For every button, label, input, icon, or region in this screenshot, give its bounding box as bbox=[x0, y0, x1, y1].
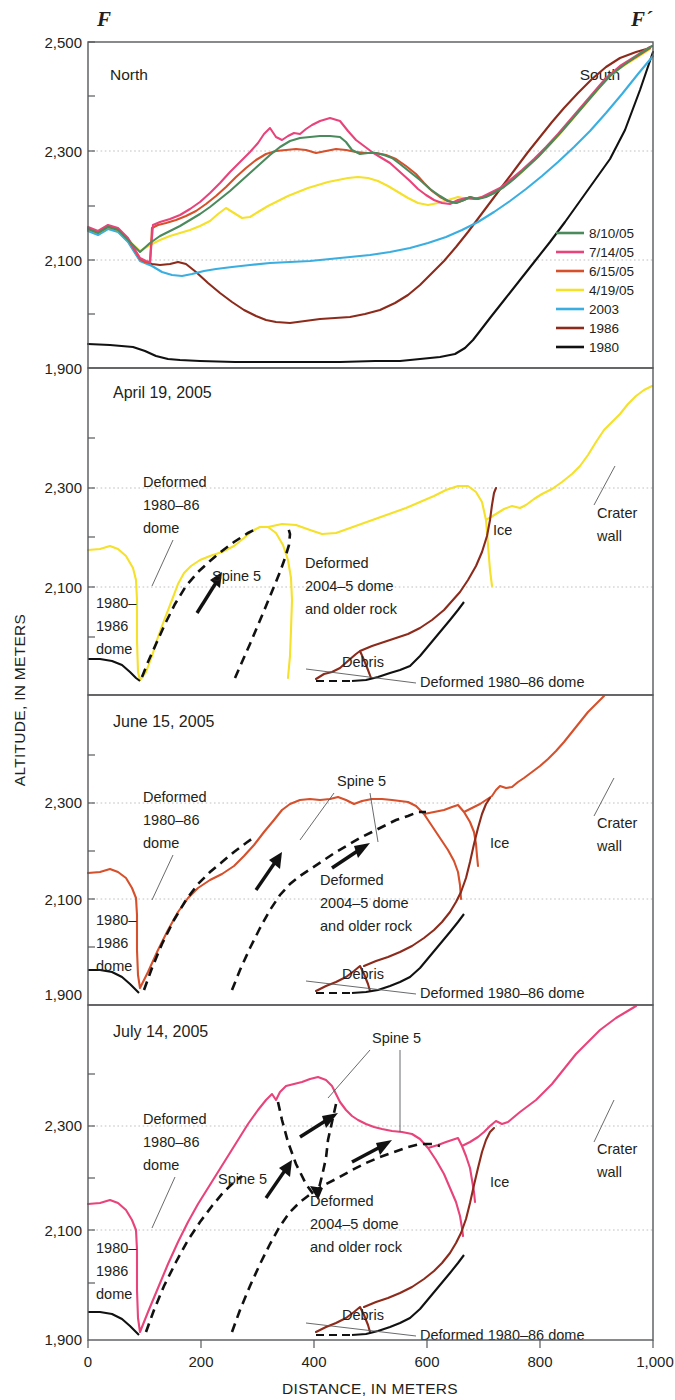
june-spine5-label: Spine 5 bbox=[337, 773, 386, 789]
xlabel-1000: 1,000 bbox=[636, 1353, 674, 1370]
july-spine5-top-leader-left bbox=[328, 1050, 370, 1098]
april-crater-leader bbox=[594, 466, 615, 505]
panel-july: 2,300 2,100 1,900 July 14, 2005 bbox=[44, 1005, 653, 1348]
june-arrow-right bbox=[332, 843, 370, 868]
direction-north-label: North bbox=[110, 66, 148, 83]
april-deformed2004-line1: Deformed bbox=[305, 555, 369, 571]
june-crater-line2: wall bbox=[596, 838, 622, 854]
june-deformed-label-line3: dome bbox=[143, 835, 179, 851]
july-debris-black-line bbox=[352, 1255, 464, 1335]
panel-overlay: 2,500 2,300 2,100 1,900 North South 8/10… bbox=[44, 34, 653, 377]
april-deformed-label-line3: dome bbox=[143, 520, 179, 536]
june-crater-line1: Crater bbox=[597, 815, 637, 831]
july-crater-leader bbox=[594, 1100, 614, 1142]
april-dome-label-line3: dome bbox=[96, 641, 132, 657]
april-deformed2004-line2: 2004–5 dome bbox=[305, 578, 394, 594]
ylabel-2300-june: 2,300 bbox=[44, 794, 82, 811]
ylabel-2300-july: 2,300 bbox=[44, 1117, 82, 1134]
july-crater-line2: wall bbox=[596, 1164, 622, 1180]
july-spine5-top-label: Spine 5 bbox=[372, 1030, 421, 1046]
panel-june-date: June 15, 2005 bbox=[113, 713, 215, 730]
legend-label-61505: 6/15/05 bbox=[589, 264, 634, 279]
legend-label-81005: 8/10/05 bbox=[589, 226, 634, 241]
april-crater-line2: wall bbox=[596, 528, 622, 544]
june-arrow-left bbox=[256, 852, 282, 890]
june-ice-label: Ice bbox=[490, 835, 509, 851]
july-deformed2004-line1: Deformed bbox=[310, 1193, 374, 1209]
june-deformed-leader bbox=[152, 855, 173, 900]
legend-label-71405: 7/14/05 bbox=[589, 245, 634, 260]
june-dome-label-line3: dome bbox=[96, 958, 132, 974]
panel-april-date: April 19, 2005 bbox=[113, 384, 212, 401]
april-1980-line bbox=[88, 659, 140, 681]
y-axis-title: ALTITUDE, IN METERS bbox=[11, 614, 28, 786]
july-debris-label: Debris bbox=[342, 1307, 384, 1323]
xlabel-0: 0 bbox=[84, 1353, 92, 1370]
july-dome-label-line3: dome bbox=[96, 1286, 132, 1302]
june-spine5-west-dash bbox=[144, 836, 256, 990]
april-deformed-bottom-label: Deformed 1980–86 dome bbox=[420, 674, 584, 690]
july-deformed-label-line1: Deformed bbox=[143, 1111, 207, 1127]
ylabel-2500: 2,500 bbox=[44, 34, 82, 51]
june-deformed2004-line2: 2004–5 dome bbox=[320, 895, 409, 911]
june-crater-leader bbox=[594, 778, 614, 816]
april-crater-line1: Crater bbox=[597, 505, 637, 521]
june-dome-label-line1: 1980– bbox=[96, 912, 137, 928]
july-spine5-left-label: Spine 5 bbox=[218, 1171, 267, 1187]
ylabel-2100-april: 2,100 bbox=[44, 579, 82, 596]
ylabel-2100-june: 2,100 bbox=[44, 891, 82, 908]
legend-label-1980: 1980 bbox=[589, 340, 619, 355]
x-axis-title: DISTANCE, IN METERS bbox=[282, 1380, 458, 1397]
figure-svg: F F´ 2,500 2,300 2,100 1,900 North South bbox=[0, 0, 675, 1400]
april-spine5-east-dash bbox=[235, 527, 290, 678]
ylabel-1900-july: 1,900 bbox=[44, 1331, 82, 1348]
april-deformed-label-line1: Deformed bbox=[143, 474, 207, 490]
july-spine-dash-inner-left bbox=[278, 1102, 316, 1198]
panel-april: 2,300 2,100 April 19, 2005 Deformed 1980… bbox=[44, 368, 653, 695]
july-spine5-west-dash bbox=[146, 1176, 242, 1332]
ylabel-1900-june: 1,900 bbox=[44, 986, 82, 1003]
xlabel-400: 400 bbox=[301, 1353, 326, 1370]
july-deformed2004-line2: 2004–5 dome bbox=[310, 1216, 399, 1232]
direction-south-label: South bbox=[580, 66, 621, 83]
april-debris-label: Debris bbox=[342, 654, 384, 670]
legend-label-2003: 2003 bbox=[589, 302, 619, 317]
panel-july-date: July 14, 2005 bbox=[113, 1023, 208, 1040]
ylabel-1900-panel1: 1,900 bbox=[44, 360, 82, 377]
april-dome-label-line1: 1980– bbox=[96, 595, 137, 611]
ylabel-2100-july: 2,100 bbox=[44, 1222, 82, 1239]
july-deformed-label-line3: dome bbox=[143, 1157, 179, 1173]
april-spine5-label: Spine 5 bbox=[212, 568, 261, 584]
july-dome-label-line1: 1980– bbox=[96, 1240, 137, 1256]
june-spine5-leader-right bbox=[370, 793, 378, 842]
june-debris-label: Debris bbox=[342, 966, 384, 982]
legend-label-1986: 1986 bbox=[589, 321, 619, 336]
july-ice-label: Ice bbox=[490, 1174, 509, 1190]
june-deformed2004-line3: and older rock bbox=[320, 918, 413, 934]
section-start-label: F bbox=[96, 7, 111, 31]
june-deformed-label-line1: Deformed bbox=[143, 789, 207, 805]
ylabel-2300: 2,300 bbox=[44, 143, 82, 160]
july-deformed2004-line3: and older rock bbox=[310, 1239, 403, 1255]
figure-cross-section: F F´ 2,500 2,300 2,100 1,900 North South bbox=[0, 0, 675, 1400]
april-deformed-label-line2: 1980–86 bbox=[143, 497, 199, 513]
july-deformed-leader bbox=[152, 1177, 175, 1228]
june-dome-label-line2: 1986 bbox=[96, 935, 128, 951]
july-1980-line bbox=[88, 1312, 139, 1335]
july-arrow-right bbox=[352, 1140, 392, 1162]
july-crater-line1: Crater bbox=[597, 1141, 637, 1157]
legend-label-41905: 4/19/05 bbox=[589, 283, 634, 298]
ylabel-2300-april: 2,300 bbox=[44, 479, 82, 496]
xlabel-600: 600 bbox=[414, 1353, 439, 1370]
july-deformed-label-line2: 1980–86 bbox=[143, 1134, 199, 1150]
july-arrow-lower-left bbox=[266, 1160, 292, 1198]
june-deformed2004-line1: Deformed bbox=[320, 872, 384, 888]
xlabel-800: 800 bbox=[527, 1353, 552, 1370]
panel-june: 2,300 2,100 1,900 June 15, 2005 Spine 5 … bbox=[44, 695, 653, 1005]
april-dome-label-line2: 1986 bbox=[96, 618, 128, 634]
april-ice-label: Ice bbox=[493, 522, 512, 538]
june-deformed-bottom-label: Deformed 1980–86 dome bbox=[420, 985, 584, 1001]
april-spine5-west-dash bbox=[142, 528, 258, 677]
july-dome-label-line2: 1986 bbox=[96, 1263, 128, 1279]
panel-overlay-bg bbox=[88, 42, 653, 368]
